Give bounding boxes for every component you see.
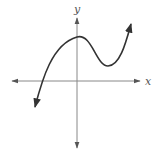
- x-axis-label: x: [145, 75, 152, 88]
- graph-canvas: x y: [0, 0, 161, 164]
- function-graph: x y: [0, 0, 161, 164]
- function-curve: [35, 24, 131, 107]
- y-axis-label: y: [73, 3, 81, 16]
